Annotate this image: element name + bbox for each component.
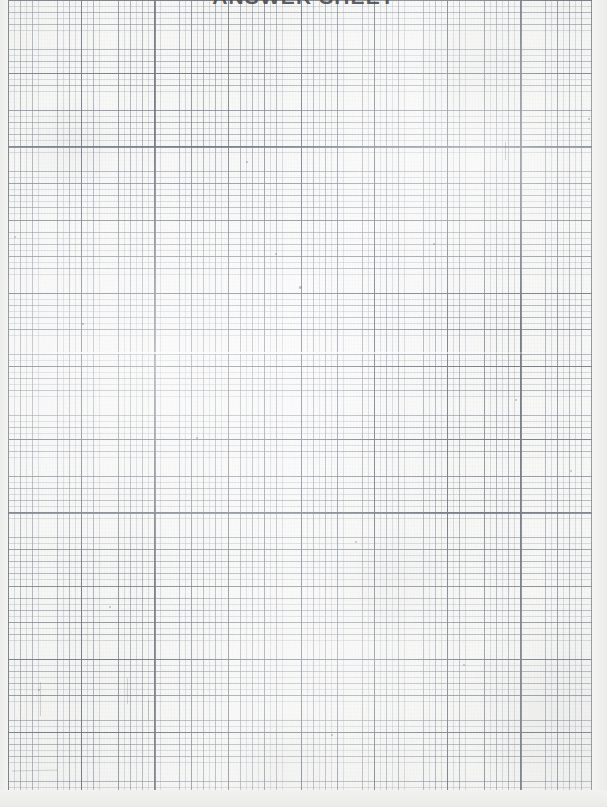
scanned-graph-paper-sheet: ANSWER SHEET	[0, 0, 607, 807]
page-title-clipped-strip: ANSWER SHEET	[0, 0, 607, 7]
grid-outer-border	[8, 0, 592, 791]
page-title: ANSWER SHEET	[0, 0, 607, 7]
graph-paper-grid	[8, 0, 592, 791]
